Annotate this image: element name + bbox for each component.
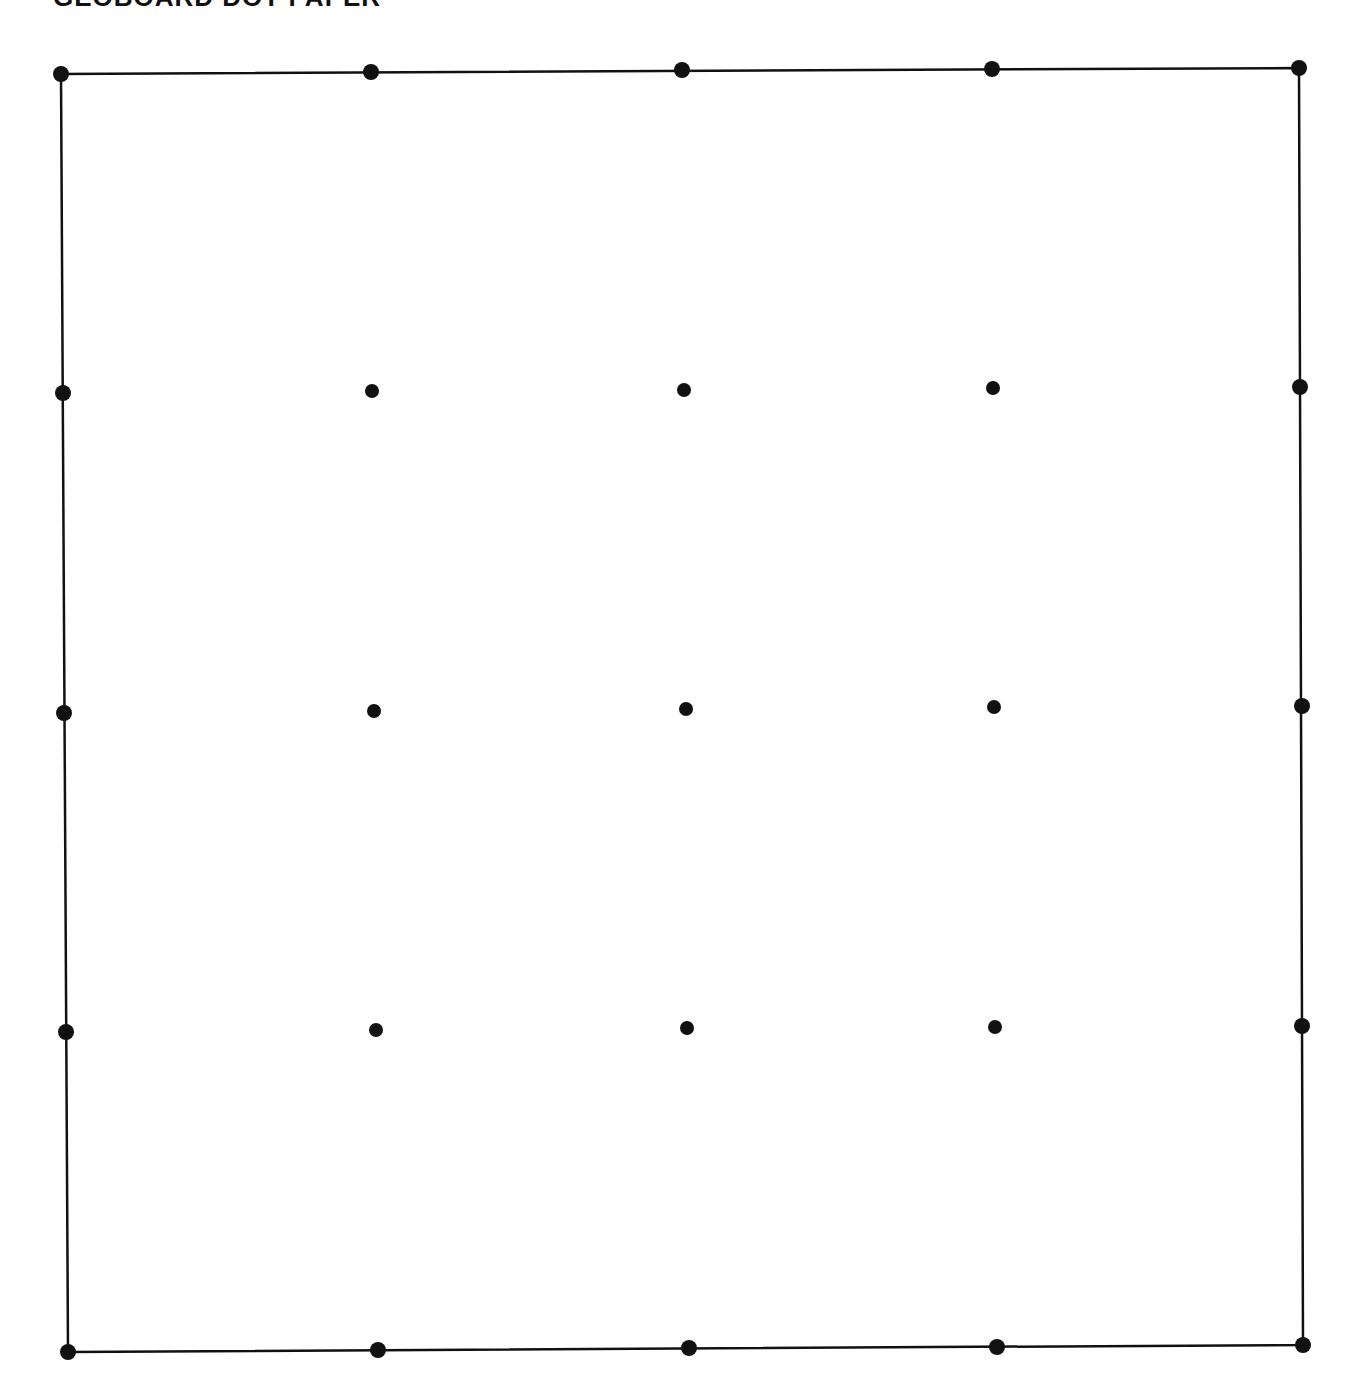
peg-dot xyxy=(60,1344,76,1360)
peg-dot xyxy=(679,702,693,716)
peg-dot xyxy=(677,383,691,397)
peg-dot xyxy=(1294,698,1310,714)
peg-dot xyxy=(1295,1337,1311,1353)
peg-dot xyxy=(1294,1018,1310,1034)
peg-dot xyxy=(53,66,69,82)
geoboard-grid xyxy=(0,0,1365,1389)
peg-dot xyxy=(989,1339,1005,1355)
peg-dot xyxy=(1291,60,1307,76)
peg-dot xyxy=(58,1024,74,1040)
peg-dot xyxy=(363,64,379,80)
peg-dot xyxy=(56,705,72,721)
peg-dot xyxy=(680,1021,694,1035)
peg-dot xyxy=(365,384,379,398)
peg-dot xyxy=(984,61,1000,77)
peg-dot xyxy=(55,385,71,401)
peg-dot xyxy=(681,1340,697,1356)
peg-dot xyxy=(988,1020,1002,1034)
peg-dot xyxy=(369,1023,383,1037)
peg-dot xyxy=(1292,379,1308,395)
peg-dot xyxy=(986,381,1000,395)
peg-dot xyxy=(370,1342,386,1358)
peg-dot xyxy=(674,62,690,78)
dot-grid xyxy=(53,60,1311,1360)
peg-dot xyxy=(987,700,1001,714)
peg-dot xyxy=(367,704,381,718)
